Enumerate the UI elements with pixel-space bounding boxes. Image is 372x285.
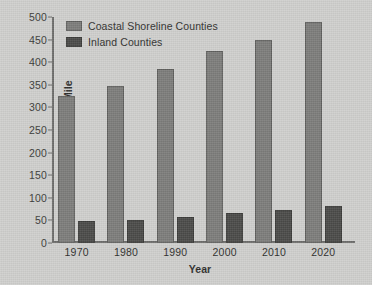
x-axis-tick-label: 2010 [262, 246, 286, 258]
x-axis-tick-label: 1970 [65, 246, 89, 258]
bar-inland-2010[interactable] [275, 210, 292, 243]
bar-group-2020 [299, 17, 348, 243]
y-axis-tick-label: 250 [29, 124, 47, 136]
y-axis-tick-label: 100 [29, 192, 47, 204]
y-axis-tick-label: 50 [35, 214, 47, 226]
legend-item-inland[interactable]: Inland Counties [66, 36, 218, 48]
x-axis-tick-label: 1980 [114, 246, 138, 258]
bar-inland-1980[interactable] [127, 220, 144, 244]
y-axis-tick-label: 500 [29, 11, 47, 23]
x-axis-tick-label: 1990 [163, 246, 187, 258]
bar-coastal-1990[interactable] [157, 69, 174, 243]
y-axis-tick-label: 150 [29, 169, 47, 181]
y-axis-tick-label: 300 [29, 101, 47, 113]
plot-area: 050100150200250300350400450500 [52, 17, 348, 243]
bar-coastal-2010[interactable] [255, 40, 272, 243]
bar-group-2000 [200, 17, 249, 243]
bar-group-1980 [101, 17, 150, 243]
bar-group-2010 [249, 17, 298, 243]
legend-swatch-icon [66, 21, 82, 31]
y-axis-tick-label: 450 [29, 34, 47, 46]
y-axis-tick-label: 200 [29, 147, 47, 159]
legend-label: Coastal Shoreline Counties [88, 20, 218, 32]
y-axis-tick-label: 0 [41, 237, 47, 249]
x-axis-tick-label: 2020 [311, 246, 335, 258]
x-axis-tick-label: 2000 [213, 246, 237, 258]
bar-coastal-2000[interactable] [206, 51, 223, 243]
x-axis-title: Year [52, 263, 348, 275]
bar-chart-figure: Persons Per Square Mile 0501001502002503… [0, 0, 372, 285]
bar-inland-2000[interactable] [226, 213, 243, 243]
bar-coastal-2020[interactable] [305, 22, 322, 243]
bar-inland-1990[interactable] [177, 217, 194, 243]
bar-inland-1970[interactable] [78, 221, 95, 243]
legend-item-coastal[interactable]: Coastal Shoreline Counties [66, 20, 218, 32]
bar-group-1990 [151, 17, 200, 243]
bar-coastal-1980[interactable] [107, 86, 124, 243]
legend-swatch-icon [66, 37, 82, 47]
chart-legend: Coastal Shoreline CountiesInland Countie… [66, 20, 218, 48]
y-axis-tick-label: 400 [29, 56, 47, 68]
y-axis-tick-label: 350 [29, 79, 47, 91]
bar-inland-2020[interactable] [325, 206, 342, 243]
bar-group-1970 [52, 17, 101, 243]
legend-label: Inland Counties [88, 36, 162, 48]
bar-coastal-1970[interactable] [58, 96, 75, 243]
